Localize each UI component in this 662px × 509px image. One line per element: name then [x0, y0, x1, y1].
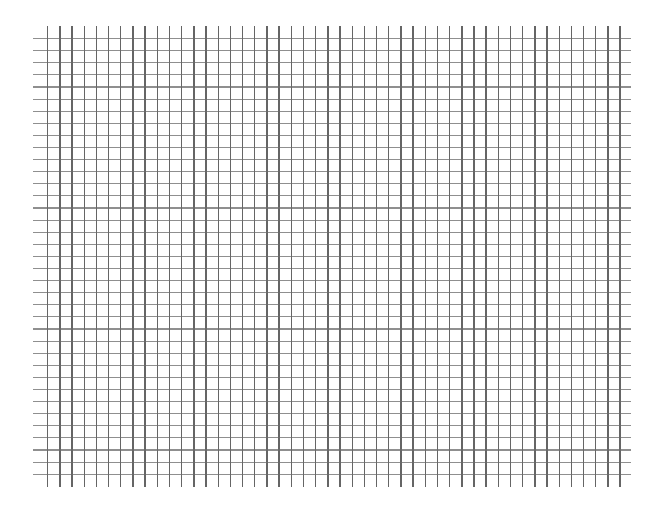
grid-horizontal-line — [33, 449, 631, 450]
grid-horizontal-line — [33, 389, 631, 390]
grid-horizontal-line — [33, 341, 631, 342]
grid-horizontal-line — [33, 437, 631, 438]
grid-horizontal-line — [33, 99, 631, 100]
grid-horizontal-line — [33, 365, 631, 366]
grid-horizontal-line — [33, 304, 631, 305]
grid-horizontal-line — [33, 280, 631, 281]
grid-horizontal-line — [33, 292, 631, 293]
grid-horizontal-line — [33, 183, 631, 184]
grid-horizontal-line — [33, 462, 631, 463]
grid-horizontal-line — [33, 244, 631, 245]
grid-horizontal-line — [33, 159, 631, 160]
grid-horizontal-line — [33, 38, 631, 39]
grid-horizontal-line — [33, 413, 631, 414]
grid-horizontal-line — [33, 195, 631, 196]
grid-horizontal-line — [33, 74, 631, 75]
grid-horizontal-line — [33, 135, 631, 136]
grid-horizontal-line — [33, 50, 631, 51]
grid-horizontal-line — [33, 316, 631, 317]
grid-horizontal-line — [33, 377, 631, 378]
grid-horizontal-line — [33, 256, 631, 257]
grid-horizontal-line — [33, 62, 631, 63]
grid-horizontal-line — [33, 123, 631, 124]
grid-horizontal-line — [33, 171, 631, 172]
grid-horizontal-line — [33, 111, 631, 112]
grid-horizontal-line — [33, 425, 631, 426]
grid-paper — [0, 0, 662, 509]
grid-horizontal-line — [33, 401, 631, 402]
grid-horizontal-line — [33, 268, 631, 269]
grid-horizontal-line — [33, 474, 631, 475]
grid-horizontal-line — [33, 207, 631, 208]
grid-horizontal-line — [33, 147, 631, 148]
grid-horizontal-line — [33, 353, 631, 354]
grid-horizontal-line — [33, 328, 631, 329]
grid-horizontal-line — [33, 232, 631, 233]
grid-horizontal-line — [33, 220, 631, 221]
grid-horizontal-line — [33, 86, 631, 87]
